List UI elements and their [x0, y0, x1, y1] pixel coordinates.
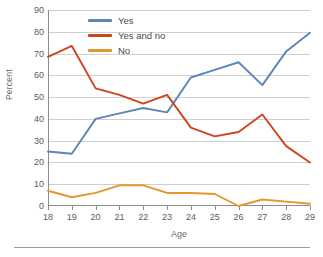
x-tick-mark	[143, 206, 144, 210]
y-axis-title: Percent	[4, 86, 14, 100]
y-tick-label: 80	[34, 27, 44, 37]
x-tick-mark	[191, 206, 192, 210]
x-tick-mark	[119, 206, 120, 210]
x-tick-mark	[262, 206, 263, 210]
series-line-no	[48, 185, 310, 206]
y-tick-label: 20	[34, 157, 44, 167]
chart-legend: YesYes and noNo	[88, 14, 165, 57]
x-tick-mark	[167, 206, 168, 210]
series-line-yes-and-no	[48, 46, 310, 163]
y-tick-label: 70	[34, 49, 44, 59]
y-tick-label: 30	[34, 136, 44, 146]
y-tick-label: 60	[34, 70, 44, 80]
legend-item[interactable]: Yes and no	[88, 29, 165, 42]
x-tick-label: 23	[162, 212, 172, 222]
x-tick-label: 29	[305, 212, 315, 222]
x-tick-label: 27	[257, 212, 267, 222]
legend-label: Yes	[118, 15, 134, 26]
x-tick-label: 19	[67, 212, 77, 222]
x-tick-label: 22	[138, 212, 148, 222]
y-tick-label: 50	[34, 92, 44, 102]
x-tick-label: 25	[210, 212, 220, 222]
x-tick-mark	[215, 206, 216, 210]
y-tick-label: 10	[34, 179, 44, 189]
y-tick-label: 40	[34, 114, 44, 124]
y-tick-label: 0	[39, 201, 44, 211]
footer-rule	[14, 247, 310, 248]
x-tick-label: 26	[234, 212, 244, 222]
legend-swatch-icon	[88, 19, 112, 22]
y-tick-label: 90	[34, 5, 44, 15]
x-tick-mark	[286, 206, 287, 210]
x-tick-mark	[310, 206, 311, 210]
x-tick-label: 24	[186, 212, 196, 222]
legend-label: No	[118, 45, 130, 56]
x-tick-label: 18	[43, 212, 53, 222]
x-axis-title: Age	[48, 229, 310, 239]
legend-swatch-icon	[88, 49, 112, 52]
legend-swatch-icon	[88, 34, 112, 37]
x-tick-label: 28	[281, 212, 291, 222]
chart-figure: Percent 0102030405060708090 181920212223…	[0, 0, 323, 257]
legend-item[interactable]: Yes	[88, 14, 165, 27]
x-tick-mark	[96, 206, 97, 210]
legend-item[interactable]: No	[88, 44, 165, 57]
x-tick-label: 20	[91, 212, 101, 222]
x-tick-mark	[48, 206, 49, 210]
x-tick-label: 21	[114, 212, 124, 222]
x-tick-mark	[72, 206, 73, 210]
legend-label: Yes and no	[118, 30, 165, 41]
